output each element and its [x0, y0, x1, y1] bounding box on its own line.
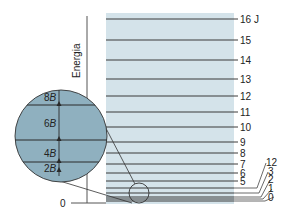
level-label: 5 — [240, 176, 246, 187]
level-label: 11 — [240, 107, 251, 118]
level-label: 15 — [240, 35, 252, 46]
spacing-label-4B: 4B — [44, 148, 57, 159]
level-label: 12 — [240, 91, 252, 102]
magnified-inset — [10, 90, 112, 182]
spacing-label-6B: 6B — [44, 118, 57, 129]
spacing-label-8B: 8B — [44, 92, 57, 103]
level-label: 10 — [240, 122, 252, 133]
level-label: 14 — [240, 55, 252, 66]
spacing-label-2B: 2B — [44, 163, 57, 174]
level-label: 9 — [240, 137, 246, 148]
zero-label: 0 — [60, 198, 66, 209]
level-panel — [106, 13, 234, 204]
level-label: 8 — [240, 148, 246, 159]
rotational-energy-level-diagram: Energia 0 16 J15141312111098765 12 3 2 1… — [0, 0, 291, 214]
level-label: 16 J — [240, 14, 259, 25]
level-label: 13 — [240, 74, 252, 85]
level-label-0: 0 — [268, 192, 274, 203]
energy-axis-label: Energia — [71, 43, 82, 78]
